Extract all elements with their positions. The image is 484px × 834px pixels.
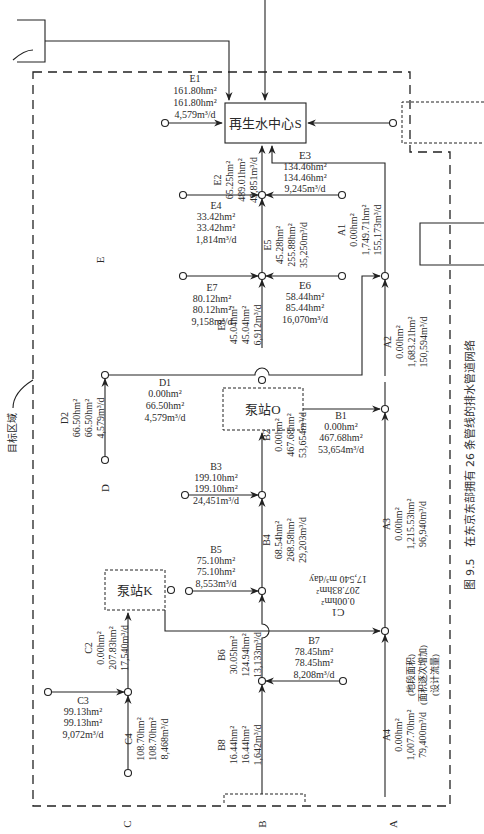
svg-text:108.70hm²: 108.70hm² — [135, 717, 146, 760]
pump-station-k[interactable]: 泵站K — [105, 570, 165, 610]
svg-text:8,468m³/d: 8,468m³/d — [159, 718, 170, 759]
regen-center-label: 再生水中心S — [229, 116, 301, 131]
label-e5: E5 45.28hm² 255.88hm² 35,250m³/d — [262, 222, 309, 268]
e1-start-node — [162, 120, 169, 127]
svg-text:6,912m³/d: 6,912m³/d — [252, 304, 263, 345]
svg-text:E6: E6 — [299, 279, 312, 291]
figure-caption: 图 9.5 在东京东部拥有 26 条管线的排水管道网络 — [463, 340, 477, 591]
label-b8: B8 16.44hm² 16.44hm² 1,642m³/d — [216, 724, 263, 765]
svg-text:155,173m³/d: 155,173m³/d — [372, 204, 383, 255]
c3-start-node — [45, 689, 52, 696]
svg-text:207.83hm²: 207.83hm² — [316, 585, 359, 596]
e8-start-node — [259, 377, 266, 384]
svg-text:C3: C3 — [77, 695, 89, 706]
target-area-label: 目标区域 — [6, 413, 18, 453]
svg-text:(面积逐次增加): (面积逐次增加) — [417, 645, 428, 705]
svg-text:(地段面积): (地段面积) — [405, 654, 416, 696]
svg-text:B4: B4 — [261, 534, 272, 546]
svg-text:66.50hm²: 66.50hm² — [71, 399, 82, 437]
junction-c3 — [125, 689, 132, 696]
b5-start-node — [186, 588, 193, 595]
svg-text:53,654m³/d: 53,654m³/d — [318, 444, 364, 455]
svg-text:16.44hm²: 16.44hm² — [228, 726, 239, 764]
pump-k-outlet-node — [168, 587, 175, 594]
svg-text:C4: C4 — [123, 733, 134, 745]
svg-text:30.05hm²: 30.05hm² — [228, 636, 239, 674]
label-c4: C4 108.70hm² 108.70hm² 8,468m³/d — [123, 717, 170, 760]
label-b1: B1 0.00hm² 467.68hm² 53,654m³/d — [318, 410, 364, 455]
label-c2: C2 0.00hm² 207.83hm² 17,540m³/d — [83, 625, 130, 671]
svg-text:C2: C2 — [83, 642, 94, 654]
svg-text:0.00hm²: 0.00hm² — [324, 421, 357, 432]
svg-text:80.12hm²: 80.12hm² — [193, 304, 231, 315]
label-e3: E3 134.46hm² 134.46hm² 9,245m³/d — [283, 149, 326, 194]
svg-text:0.00hm²: 0.00hm² — [321, 596, 354, 607]
svg-text:1,007.70hm²: 1,007.70hm² — [405, 710, 416, 761]
svg-text:0.00hm²: 0.00hm² — [348, 213, 359, 246]
trunk-label-a: A — [387, 820, 399, 828]
junction-b5 — [259, 588, 266, 595]
svg-text:B2: B2 — [261, 429, 272, 441]
svg-text:78.45hm²: 78.45hm² — [295, 646, 333, 657]
junction-a3 — [382, 628, 389, 635]
label-b3: B3 199.10hm² 199.10hm² 24,451m³/d — [193, 461, 239, 506]
svg-text:(设计流量): (设计流量) — [429, 654, 440, 696]
svg-text:0.00hm²: 0.00hm² — [393, 507, 404, 540]
svg-text:207.83hm²: 207.83hm² — [107, 626, 118, 669]
svg-text:B1: B1 — [335, 410, 347, 421]
svg-text:80.12hm²: 80.12hm² — [193, 293, 231, 304]
svg-text:134.46hm²: 134.46hm² — [283, 161, 326, 172]
junction-a1 — [382, 273, 389, 280]
svg-text:0.00hm²: 0.00hm² — [148, 388, 181, 399]
pump-o-label: 泵站O — [245, 402, 280, 417]
svg-text:E3: E3 — [299, 149, 312, 161]
svg-text:E5: E5 — [262, 239, 273, 250]
pipe-b6 — [262, 595, 269, 678]
svg-text:467.68hm²: 467.68hm² — [319, 432, 362, 443]
svg-text:161.80hm²: 161.80hm² — [173, 97, 216, 108]
svg-text:B3: B3 — [210, 461, 222, 472]
label-e6: E6 58.44hm² 85.44hm² 16,070m³/d — [282, 279, 328, 325]
junction-e-upper — [259, 192, 266, 199]
svg-text:199.10hm²: 199.10hm² — [194, 483, 237, 494]
svg-text:85.44hm²: 85.44hm² — [286, 302, 324, 313]
svg-text:78.45hm²: 78.45hm² — [295, 657, 333, 668]
svg-text:16,070m³/d: 16,070m³/d — [282, 314, 328, 325]
label-c3: C3 99.13hm² 99.13hm² 9,072m³/d — [62, 695, 103, 740]
label-b6: B6 30.05hm² 124.94hm² 13,133m³/d — [216, 632, 263, 678]
svg-text:1,749.71hm²: 1,749.71hm² — [360, 205, 371, 256]
svg-text:255.88hm²: 255.88hm² — [286, 223, 297, 266]
regen-center-box[interactable]: 再生水中心S — [225, 103, 306, 143]
trunk-label-e: E — [94, 256, 106, 263]
pipe-c1 — [165, 610, 380, 631]
label-a2: A2 0.00hm² 1,683.21hm² 150,594m³/d — [382, 316, 429, 367]
label-a1: A1 0.00hm² 1,749.71hm² 155,173m³/d — [336, 204, 383, 255]
svg-text:D1: D1 — [159, 377, 171, 388]
label-b4: B4 68.54hm² 268.58hm² 29,203m³/d — [261, 517, 308, 563]
label-b2: B2 0.00hm² 467.68hm² 53,654m³/d — [261, 412, 308, 458]
svg-text:16.44hm²: 16.44hm² — [240, 726, 251, 764]
label-e2: E2 65.25hm² 489.01hm² 49,851m³/d — [212, 157, 259, 203]
svg-text:0.00hm²: 0.00hm² — [393, 718, 404, 751]
svg-text:199.10hm²: 199.10hm² — [194, 472, 237, 483]
e3-start-node — [339, 192, 346, 199]
svg-text:35,250m³/d: 35,250m³/d — [298, 222, 309, 268]
svg-text:A2: A2 — [382, 336, 393, 348]
svg-text:A1: A1 — [336, 224, 347, 236]
svg-text:A4: A4 — [381, 729, 392, 741]
svg-text:99.13hm²: 99.13hm² — [64, 706, 102, 717]
external-area-right-lower — [420, 223, 484, 265]
svg-text:8,208m³/d: 8,208m³/d — [293, 669, 334, 680]
label-e4: E4 33.42hm² 33.42hm² 1,814m³/d — [195, 200, 236, 245]
svg-text:4,579m³/d: 4,579m³/d — [95, 397, 106, 438]
svg-text:96,940m³/d: 96,940m³/d — [417, 501, 428, 547]
svg-text:45.28hm²: 45.28hm² — [274, 226, 285, 264]
svg-text:17,540m³/d: 17,540m³/d — [119, 625, 130, 671]
d1-start-node — [102, 372, 109, 379]
junction-b3 — [259, 492, 266, 499]
svg-text:4,579m³/d: 4,579m³/d — [144, 412, 185, 423]
svg-text:45.04hm²: 45.04hm² — [228, 306, 239, 344]
legend-notes: (地段面积) (面积逐次增加) (设计流量) — [405, 645, 440, 705]
e4-start-node — [180, 192, 187, 199]
svg-text:150,594m³/d: 150,594m³/d — [418, 316, 429, 367]
